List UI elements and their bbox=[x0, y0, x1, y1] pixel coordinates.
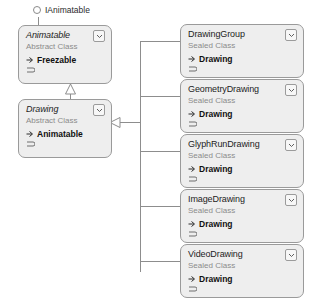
class-stereotype: Sealed Class bbox=[188, 206, 297, 216]
class-member-label: Animatable bbox=[37, 129, 83, 139]
class-shape-glyphrundrawing[interactable]: GlyphRunDrawing Sealed Class Drawing bbox=[180, 134, 304, 188]
class-stereotype: Sealed Class bbox=[188, 151, 297, 161]
class-stereotype: Sealed Class bbox=[188, 261, 297, 271]
class-header: VideoDrawing bbox=[188, 249, 297, 261]
class-shape-animatable[interactable]: Animatable Abstract Class Freezable bbox=[18, 25, 112, 84]
class-member-row[interactable]: Freezable bbox=[26, 55, 105, 65]
class-member-label: Drawing bbox=[199, 164, 233, 174]
class-header: ImageDrawing bbox=[188, 194, 297, 206]
class-member-row[interactable]: Animatable bbox=[26, 129, 105, 139]
interface-lollipop[interactable]: IAnimatable bbox=[33, 5, 90, 15]
class-member-row[interactable]: Drawing bbox=[188, 164, 297, 174]
class-member-row[interactable]: Drawing bbox=[188, 219, 297, 229]
class-shape-imagedrawing[interactable]: ImageDrawing Sealed Class Drawing bbox=[180, 189, 304, 243]
class-header: DrawingGroup bbox=[188, 29, 297, 41]
chevron-down-icon[interactable] bbox=[93, 104, 105, 116]
class-stereotype: Abstract Class bbox=[26, 42, 105, 52]
chevron-down-icon[interactable] bbox=[285, 84, 297, 96]
class-member-label: Drawing bbox=[199, 274, 233, 284]
chevron-down-icon[interactable] bbox=[285, 29, 297, 41]
base-class-arrow-icon bbox=[26, 130, 34, 138]
base-class-arrow-icon bbox=[188, 220, 196, 228]
class-shape-drawinggroup[interactable]: DrawingGroup Sealed Class Drawing bbox=[180, 24, 304, 78]
resize-handle-icon[interactable] bbox=[188, 176, 197, 183]
class-member-label: Freezable bbox=[37, 55, 76, 65]
resize-handle-icon[interactable] bbox=[26, 67, 35, 74]
base-class-arrow-icon bbox=[188, 275, 196, 283]
generalization-arrowhead-animatable bbox=[66, 84, 76, 94]
class-name: DrawingGroup bbox=[188, 29, 245, 40]
interface-label: IAnimatable bbox=[45, 5, 90, 15]
chevron-down-icon[interactable] bbox=[285, 194, 297, 206]
class-name: Animatable bbox=[26, 30, 70, 41]
chevron-down-icon[interactable] bbox=[93, 30, 105, 42]
class-stereotype: Sealed Class bbox=[188, 96, 297, 106]
resize-handle-icon[interactable] bbox=[26, 141, 35, 148]
class-stereotype: Sealed Class bbox=[188, 41, 297, 51]
class-member-label: Drawing bbox=[199, 109, 233, 119]
base-class-arrow-icon bbox=[188, 110, 196, 118]
class-shape-geometrydrawing[interactable]: GeometryDrawing Sealed Class Drawing bbox=[180, 79, 304, 133]
base-class-arrow-icon bbox=[188, 55, 196, 63]
class-shape-videodrawing[interactable]: VideoDrawing Sealed Class Drawing bbox=[180, 244, 304, 298]
base-class-arrow-icon bbox=[26, 56, 34, 64]
class-member-row[interactable]: Drawing bbox=[188, 274, 297, 284]
class-member-row[interactable]: Drawing bbox=[188, 109, 297, 119]
class-header: GlyphRunDrawing bbox=[188, 139, 297, 151]
class-member-row[interactable]: Drawing bbox=[188, 54, 297, 64]
class-header: Animatable bbox=[26, 30, 105, 42]
resize-handle-icon[interactable] bbox=[188, 66, 197, 73]
lollipop-circle-icon bbox=[33, 6, 41, 14]
class-name: Drawing bbox=[26, 104, 58, 115]
class-diagram-canvas: IAnimatable Animatable Abstract Class Fr… bbox=[0, 0, 318, 304]
chevron-down-icon[interactable] bbox=[285, 139, 297, 151]
class-name: ImageDrawing bbox=[188, 194, 245, 205]
class-name: VideoDrawing bbox=[188, 249, 243, 260]
class-member-label: Drawing bbox=[199, 219, 233, 229]
chevron-down-icon[interactable] bbox=[285, 249, 297, 261]
class-stereotype: Abstract Class bbox=[26, 116, 105, 126]
class-header: GeometryDrawing bbox=[188, 84, 297, 96]
resize-handle-icon[interactable] bbox=[188, 286, 197, 293]
class-member-label: Drawing bbox=[199, 54, 233, 64]
base-class-arrow-icon bbox=[188, 165, 196, 173]
resize-handle-icon[interactable] bbox=[188, 121, 197, 128]
class-name: GlyphRunDrawing bbox=[188, 139, 260, 150]
resize-handle-icon[interactable] bbox=[188, 231, 197, 238]
class-shape-drawing[interactable]: Drawing Abstract Class Animatable bbox=[18, 99, 112, 158]
class-header: Drawing bbox=[26, 104, 105, 116]
class-name: GeometryDrawing bbox=[188, 84, 259, 95]
